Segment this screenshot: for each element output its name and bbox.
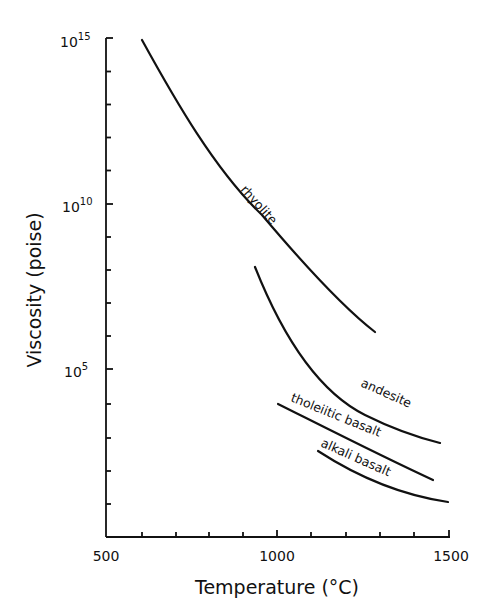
rhyolite-label: rhyolite — [238, 182, 281, 228]
x-tick-labels: 500 1000 1500 — [93, 548, 469, 564]
x-tick-1000: 1000 — [259, 548, 295, 564]
axes — [106, 38, 450, 537]
y-tick-labels: 1015 1010 105 — [60, 31, 93, 380]
x-tick-500: 500 — [93, 548, 120, 564]
y-tick-1e10: 1010 — [62, 196, 93, 215]
y-tick-1e5: 105 — [64, 361, 88, 380]
y-axis-title: Viscosity (poise) — [23, 212, 45, 367]
y-tick-1e15: 1015 — [60, 31, 91, 50]
andesite-label: andesite — [359, 375, 415, 411]
x-tick-1500: 1500 — [433, 548, 469, 564]
x-axis-title: Temperature (°C) — [194, 576, 359, 598]
rhyolite-curve — [142, 40, 375, 332]
viscosity-chart: 1015 1010 105 500 1000 1500 Temperature … — [0, 0, 490, 615]
